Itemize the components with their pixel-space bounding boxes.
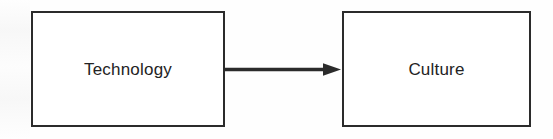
node-technology-label: Technology: [84, 61, 172, 78]
node-culture-label: Culture: [408, 61, 464, 78]
edge-arrowhead: [323, 63, 341, 76]
diagram-canvas: Technology Culture: [0, 0, 553, 139]
node-culture[interactable]: Culture: [342, 11, 531, 127]
arrow-right-icon: [225, 62, 342, 78]
node-technology[interactable]: Technology: [31, 11, 225, 127]
scan-texture: [0, 0, 30, 139]
edge-technology-to-culture: [225, 62, 342, 78]
